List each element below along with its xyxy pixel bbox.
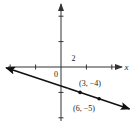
point-3-neg4 — [78, 91, 82, 95]
coordinate-plot: x 2 0 (3, −4) (6, −5) — [0, 0, 134, 123]
x-tick-label: 2 — [72, 54, 76, 63]
point-label-6-neg5: (6, −5) — [73, 104, 95, 113]
point-6-neg5 — [97, 97, 101, 101]
x-axis-label: x — [124, 62, 129, 72]
origin-label: 0 — [54, 70, 58, 79]
point-label-3-neg4: (3, −4) — [79, 79, 101, 88]
plotted-line-left-arrow — [6, 68, 68, 89]
